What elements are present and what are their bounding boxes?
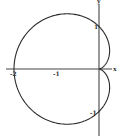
- y-tick-label-neg1: -1: [90, 109, 97, 116]
- x-tick-label-neg1: -1: [53, 70, 60, 77]
- cardioid-plot: -2 -1 1 -1 x y: [0, 0, 119, 140]
- x-tick-label-neg2: -2: [10, 70, 17, 77]
- x-axis-label: x: [113, 65, 117, 72]
- y-tick-label-pos1: 1: [94, 23, 98, 30]
